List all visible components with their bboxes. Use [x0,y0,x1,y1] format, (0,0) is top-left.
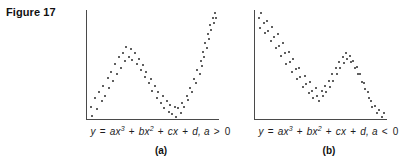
scatter-point [116,73,118,75]
scatter-point [94,97,96,99]
scatter-point [168,111,170,113]
scatter-point [352,60,354,62]
scatter-point [342,56,344,58]
plot-area-b [254,10,387,120]
scatter-point [315,87,317,89]
scatter-point [145,71,147,73]
equation-lhs: y [258,126,263,137]
equation-b: y = ax3 + bx2 + cx + d, a < 0 [234,126,404,137]
scatter-point [114,63,116,65]
equation-condition-value: 0 [392,126,400,137]
scatter-point [91,115,93,117]
scatter-point [134,52,136,54]
scatter-point [175,116,177,118]
scatter-point [151,90,153,92]
equation-term3: cx [336,126,346,137]
scatter-point [370,100,372,102]
scatter-point [284,52,286,54]
scatter-point [104,95,106,97]
equation-plus-1: + [128,126,136,137]
scatter-point [329,86,331,88]
scatter-point [316,95,318,97]
scatter-point [363,82,365,84]
scatter-point [120,67,122,69]
equation-term4: d, [192,126,201,137]
scatter-point [273,36,275,38]
equation-a: y = ax3 + bx2 + cx + d, a > 0 [66,126,256,137]
scatter-point [308,92,310,94]
scatter-point [204,42,206,44]
scatter-point [322,95,324,97]
scatter-point [118,56,120,58]
equation-condition-operator: > [213,126,221,137]
scatter-point [183,106,185,108]
scatter-point [258,17,260,19]
scatter-point [305,83,307,85]
scatter-point [325,91,327,93]
equation-plus-1: + [296,126,304,137]
scatter-point [311,90,313,92]
equation-term1: ax [110,126,121,137]
equation-term2: bx [307,126,318,137]
scatter-point [368,97,370,99]
scatter-point [101,100,103,102]
equation-term1-exponent: 3 [289,125,293,132]
scatter-point [102,85,104,87]
scatter-point [209,24,211,26]
scatter-point [277,33,279,35]
scatter-point [90,106,92,108]
scatter-point [203,56,205,58]
scatter-point [299,76,301,78]
plot-area-a [86,10,219,120]
scatter-point [186,95,188,97]
equation-term2-exponent: 2 [150,125,154,132]
scatter-point [125,46,127,48]
scatter-point [359,73,361,75]
scatter-point [259,27,261,29]
scatter-point [148,82,150,84]
scatter-point [193,78,195,80]
scatter-point [128,56,130,58]
scatter-point [130,48,132,50]
scatter-point [199,73,201,75]
scatter-point [275,47,277,49]
scatter-point [263,22,265,24]
scatter-point [291,71,293,73]
scatter-point [157,91,159,93]
panel-label-b: (b) [234,145,404,156]
scatter-point [169,104,171,106]
scatter-point [166,100,168,102]
scatter-point [136,63,138,65]
scatter-point [335,67,337,69]
scatter-point [312,97,314,99]
scatter-point [371,106,373,108]
scatter-point [187,99,189,101]
scatter-point [162,95,164,97]
scatter-point [171,113,173,115]
scatter-point [156,97,158,99]
scatter-point [267,30,269,32]
scatter-point [356,66,358,68]
scatter-point [285,63,287,65]
scatter-point [378,109,380,111]
panel-label-a: (a) [66,145,256,156]
scatter-point [321,90,323,92]
scatter-point [296,78,298,80]
equation-condition-operator: < [381,126,389,137]
scatter-point [339,67,341,69]
scatter-point [131,59,133,61]
scatter-point [214,12,216,14]
scatter-point [195,82,197,84]
scatter-point [140,69,142,71]
equation-condition-value: 0 [224,126,232,137]
scatter-point [278,45,280,47]
scatter-point [108,87,110,89]
figure-container: Figure 17 y = ax3 + bx2 + cx + d, a > 0 … [0,0,404,166]
scatter-point [160,102,162,104]
equation-term1: ax [278,126,289,137]
equation-plus-2: + [325,126,333,137]
scatter-point [181,102,183,104]
equation-term2-exponent: 2 [318,125,322,132]
scatter-point [150,78,152,80]
equation-term4: d, [360,126,369,137]
